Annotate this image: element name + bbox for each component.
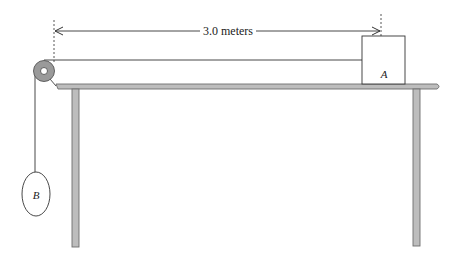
table-top (56, 84, 439, 89)
pulley-bracket (50, 79, 56, 86)
table-leg-right (413, 89, 420, 246)
table-leg-left (72, 89, 79, 247)
pulley-axle (41, 68, 48, 75)
mass-b-label: B (33, 189, 40, 201)
block-a-label: A (380, 68, 388, 80)
pulley-table-diagram: 3.0 meters A B (0, 0, 457, 259)
distance-dimension: 3.0 meters (54, 14, 381, 62)
mass-b: B (22, 172, 50, 216)
pulley (34, 61, 55, 82)
block-a: A (362, 36, 405, 84)
distance-label: 3.0 meters (203, 24, 253, 38)
